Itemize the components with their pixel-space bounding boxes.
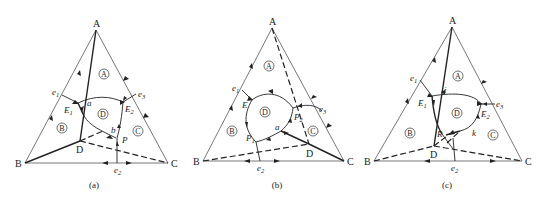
arrow-icon [244, 159, 250, 163]
arrow-icon [490, 159, 496, 163]
point-label-e1: e1 [232, 83, 239, 94]
join-line-dc [434, 146, 522, 161]
arrow-icon [481, 80, 487, 84]
curve-R-lower [442, 134, 453, 149]
region-label-d: D [454, 109, 460, 118]
caption-b: (b) [272, 180, 283, 190]
point-label-b: b [111, 125, 116, 135]
arrow-icon [126, 161, 132, 165]
region-label-d: D [262, 108, 268, 117]
region-label-c: C [490, 131, 495, 140]
join-line-bd [374, 146, 434, 161]
region-label-a: A [455, 72, 461, 81]
arrow-icon [298, 103, 302, 108]
region-label-a: A [101, 70, 107, 79]
region-label-c: C [310, 127, 315, 136]
vertex-label-b: B [364, 156, 371, 167]
point-label-e1: e1 [410, 73, 417, 84]
point-label-E2: E2 [124, 104, 135, 115]
point-label-a: a [87, 98, 92, 108]
arrow-icon [77, 70, 81, 76]
region-label-b: B [407, 129, 412, 138]
triangle-abc [25, 30, 168, 163]
arrow-icon [405, 98, 409, 104]
join-line-dc [309, 144, 344, 161]
point-label-e3: e3 [496, 99, 504, 110]
curve-E1-E2 [432, 94, 481, 104]
caption-a: (a) [89, 180, 99, 190]
point-label-k: k [472, 128, 477, 138]
arrow-icon [477, 101, 483, 106]
point-label-e3: e3 [138, 89, 146, 100]
phase-diagrams: A B C D A B C D e1 e3 e2 E1 E2 a b P (a) [0, 0, 550, 205]
arrow-icon [102, 161, 108, 165]
point-label-P1: P1 [245, 133, 255, 144]
arrow-icon [326, 123, 332, 128]
point-label-E1: E1 [417, 98, 427, 109]
vertex-label-b: B [15, 158, 22, 169]
point-label-a: a [275, 122, 280, 132]
point-label-e3: e3 [319, 104, 327, 115]
arrow-icon [245, 122, 248, 128]
compound-label-d: D [76, 144, 83, 155]
vertex-label-c: C [347, 156, 354, 167]
arrow-icon [274, 159, 280, 163]
vertex-label-c: C [525, 156, 532, 167]
join-line-ad [80, 30, 96, 141]
arrow-icon [483, 102, 487, 106]
point-label-e2: e2 [114, 165, 122, 176]
arrow-icon [311, 95, 317, 99]
region-label-b: B [229, 127, 234, 136]
point-label-p: P [121, 135, 128, 145]
curve-E-P2 [252, 94, 293, 108]
vertex-label-a: A [93, 18, 101, 29]
panel-c: A B C D A B C D e1 e3 e2 E1 E2 i k R (c) [364, 15, 532, 190]
panel-b: A B C D A B C D e1 e3 e2 E P1 P2 a (b) [193, 16, 354, 190]
point-label-e1: e1 [52, 87, 59, 98]
curve-e1-E1 [420, 80, 432, 96]
vertex-label-c: C [171, 158, 178, 169]
compound-label-d: D [306, 148, 313, 159]
arrow-icon [448, 130, 455, 135]
join-line-bd [25, 141, 80, 163]
point-label-E2: E2 [480, 109, 491, 120]
arrow-icon [268, 89, 273, 94]
curve-E1-E2 [78, 97, 123, 103]
point-label-E: E [241, 100, 248, 110]
panel-a: A B C D A B C D e1 e3 e2 E1 E2 a b P (a) [15, 18, 178, 190]
point-label-P2: P2 [293, 112, 304, 123]
arrow-icon [123, 76, 129, 81]
point-label-E1: E1 [63, 105, 73, 116]
compound-label-d: D [430, 149, 437, 160]
join-line-db [80, 131, 103, 141]
point-label-i: i [444, 85, 447, 95]
arrow-icon [116, 141, 119, 146]
vertex-label-a: A [269, 16, 277, 27]
point-label-e2: e2 [451, 163, 459, 174]
join-line-bd [203, 144, 309, 161]
arrow-icon [143, 113, 149, 118]
point-label-r: R [436, 129, 443, 139]
caption-c: (c) [442, 180, 452, 190]
curve-E2-P [117, 102, 123, 138]
point-label-e2: e2 [257, 163, 265, 174]
vertex-label-b: B [193, 156, 200, 167]
region-label-b: B [59, 124, 64, 133]
region-label-a: A [266, 62, 272, 71]
arrow-icon [49, 115, 53, 121]
vertex-label-a: A [449, 15, 457, 26]
region-label-c: C [135, 127, 140, 136]
region-label-d: D [100, 110, 106, 119]
